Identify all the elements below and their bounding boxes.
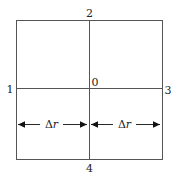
left-delta-r-label: Δr: [45, 118, 59, 131]
node-label-right: 3: [165, 84, 172, 97]
node-label-center: 0: [92, 76, 99, 89]
left-delta-r-dimension: Δr: [18, 118, 87, 131]
node-label-bottom: 4: [86, 162, 93, 175]
node-label-top: 2: [86, 7, 93, 20]
node-label-left: 1: [7, 83, 14, 96]
right-delta-r-label: Δr: [118, 118, 132, 131]
finite-difference-grid-diagram: Δr Δr 2 1 3 4 0: [0, 0, 176, 182]
right-delta-r-dimension: Δr: [91, 118, 160, 131]
